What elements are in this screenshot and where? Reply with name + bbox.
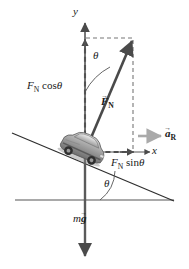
fn-cos-subscript: N (34, 85, 40, 94)
gravity-symbol: →g (81, 213, 87, 224)
diagram-canvas (0, 0, 189, 269)
weight-label: m→g (73, 213, 86, 224)
theta-bottom-label: θ (104, 178, 109, 189)
theta-top-label: θ (93, 50, 98, 61)
fn-sin-base: F (111, 156, 118, 168)
fn-cos-theta-label: FN cosθ (27, 80, 62, 94)
physics-force-diagram: y x θ θ FN cosθ FN sinθ →FN →aR m→g (0, 0, 189, 269)
fn-sin-trig: sin (126, 156, 139, 168)
normal-force-label: →FN (101, 96, 114, 110)
fn-sin-subscript: N (118, 162, 124, 171)
vector-accent-icon: → (80, 210, 87, 217)
fn-sin-angle: θ (139, 156, 144, 168)
theta-top-arc (85, 67, 110, 92)
fn-cos-base: F (27, 79, 34, 91)
fn-cos-angle: θ (57, 79, 62, 91)
radial-acceleration-label: →aR (165, 128, 176, 142)
normal-force-symbol: →F (101, 96, 108, 107)
fn-subscript: N (108, 101, 114, 110)
fn-cos-trig: cos (42, 79, 57, 91)
y-axis-label: y (73, 6, 78, 17)
ar-subscript: R (171, 133, 177, 142)
vector-accent-icon: → (164, 125, 171, 132)
vector-accent-icon: → (101, 93, 108, 100)
radial-acceleration-symbol: →a (165, 128, 171, 139)
x-axis-label: x (152, 145, 157, 156)
fn-sin-theta-label: FN sinθ (111, 157, 144, 171)
